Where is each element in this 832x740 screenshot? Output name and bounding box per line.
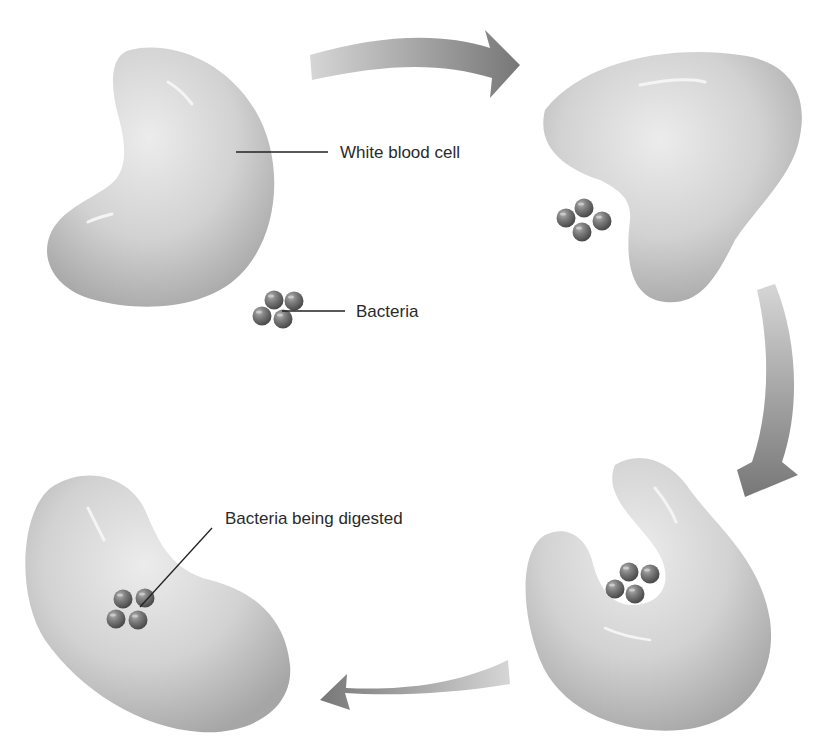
label-bacteria-being-digested: Bacteria being digested — [225, 510, 403, 527]
phagocytosis-diagram — [0, 0, 832, 740]
label-white-blood-cell: White blood cell — [340, 144, 460, 161]
bacteria-cluster-free — [253, 291, 304, 329]
label-bacteria: Bacteria — [356, 303, 418, 320]
white-blood-cell-stage-2 — [543, 52, 802, 302]
arrow-right-icon — [310, 30, 520, 98]
white-blood-cell-stage-1 — [47, 48, 274, 307]
bacteria-cluster-stage-2 — [557, 199, 612, 242]
arrow-left-icon — [320, 660, 510, 710]
bacteria-cluster-stage-3 — [606, 563, 660, 604]
arrow-down-icon — [737, 284, 798, 497]
white-blood-cell-stage-3 — [526, 458, 771, 731]
